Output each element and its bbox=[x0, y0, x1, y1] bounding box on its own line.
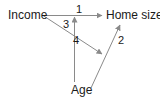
edge-label-4: 4 bbox=[73, 35, 79, 46]
edge-label-3: 3 bbox=[63, 19, 69, 30]
edge-2-age-to-home-size bbox=[91, 25, 120, 88]
node-home-size: Home size bbox=[106, 9, 160, 21]
node-age: Age bbox=[71, 84, 92, 96]
edge-label-1: 1 bbox=[76, 4, 82, 15]
edge-label-2: 2 bbox=[118, 35, 124, 46]
node-income: Income bbox=[8, 9, 47, 21]
